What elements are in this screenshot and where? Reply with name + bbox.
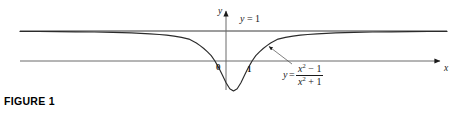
function-label: y= x2 − 1 x2 + 1 — [283, 63, 323, 87]
asymptote-label: y = 1 — [240, 13, 260, 24]
figure-container: y x 0 1 y = 1 y= x2 − 1 x2 + 1 FIGURE 1 — [0, 0, 467, 113]
figure-caption: FIGURE 1 — [4, 95, 55, 107]
origin-label: 0 — [216, 62, 221, 72]
x-tick-label-1: 1 — [247, 64, 252, 74]
plot-svg — [0, 0, 467, 113]
function-label-fraction: x2 − 1 x2 + 1 — [296, 63, 323, 87]
x-axis-label: x — [444, 63, 448, 73]
function-label-denominator: x2 + 1 — [296, 76, 323, 88]
denominator-exponent: 2 — [303, 74, 306, 81]
numerator-tail: − 1 — [308, 63, 321, 74]
asymptote-label-text: = 1 — [244, 13, 260, 24]
function-label-numerator: x2 − 1 — [296, 63, 323, 76]
function-label-equals: = — [287, 70, 296, 80]
numerator-exponent: 2 — [303, 62, 306, 69]
y-axis-label: y — [218, 6, 222, 16]
denominator-tail: + 1 — [308, 76, 321, 87]
